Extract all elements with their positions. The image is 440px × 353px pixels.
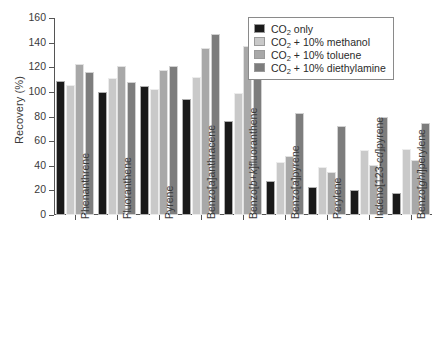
x-tick-label: Benzo[a]pyrene: [289, 145, 301, 219]
y-tick-mark: [49, 166, 54, 167]
legend-label: CO2 only: [271, 23, 313, 35]
x-tick-label: Pyrene: [163, 186, 175, 219]
y-tick-label: 160: [28, 11, 46, 23]
y-tick-label: 0: [40, 208, 46, 220]
x-tick-label: Benzo[b+k]fluoranthene: [247, 108, 259, 219]
y-axis-line: [54, 18, 55, 215]
y-tick-label: 20: [34, 183, 46, 195]
bar: [66, 85, 75, 216]
y-tick-label: 140: [28, 36, 46, 48]
x-axis-labels: PhenanthreneFluoranthenePyreneBenzo[a]an…: [54, 219, 432, 349]
bar: [392, 193, 401, 215]
legend-swatch-icon: [254, 37, 265, 46]
legend-swatch-icon: [254, 50, 265, 59]
legend-label: CO2 + 10% methanol: [271, 36, 370, 48]
bar: [182, 99, 191, 215]
legend-item: CO2 + 10% toluene: [254, 48, 386, 61]
x-tick-label: Perylene: [331, 178, 343, 219]
legend-item: CO2 + 10% diethylamine: [254, 61, 386, 74]
bar: [402, 149, 411, 215]
bar: [192, 77, 201, 215]
x-tick-label: Fluoranthene: [121, 157, 133, 219]
bar: [360, 150, 369, 215]
legend-item: CO2 only: [254, 22, 386, 35]
legend-item: CO2 + 10% methanol: [254, 35, 386, 48]
y-tick-label: 40: [34, 159, 46, 171]
legend-label: CO2 + 10% toluene: [271, 49, 361, 61]
bar: [224, 121, 233, 215]
y-tick-label: 60: [34, 134, 46, 146]
bar: [308, 187, 317, 215]
y-axis-title: Recovery (%): [13, 50, 25, 170]
bar: [140, 86, 149, 215]
bar: [98, 92, 107, 215]
y-tick-mark: [49, 141, 54, 142]
y-tick-mark: [49, 190, 54, 191]
bar: [56, 81, 65, 215]
y-tick-mark: [49, 215, 54, 216]
y-tick-label: 80: [34, 110, 46, 122]
x-tick-label: Benzo[ghi]perylene: [415, 129, 427, 219]
bar: [234, 93, 243, 215]
legend-swatch-icon: [254, 24, 265, 33]
y-tick-label: 100: [28, 85, 46, 97]
bar: [150, 89, 159, 215]
y-tick-mark: [49, 43, 54, 44]
bar: [350, 190, 359, 215]
y-tick-mark: [49, 18, 54, 19]
x-tick-label: Benzo[a]anthracene: [205, 125, 217, 219]
y-tick-mark: [49, 67, 54, 68]
bar: [266, 181, 275, 215]
x-tick-label: Indeno[123-cd]pyrene: [373, 117, 385, 219]
x-tick-label: Phenanthrene: [79, 153, 91, 219]
legend-swatch-icon: [254, 63, 265, 72]
y-tick-mark: [49, 92, 54, 93]
chart-legend: CO2 onlyCO2 + 10% methanolCO2 + 10% tolu…: [248, 17, 394, 80]
y-tick-label: 120: [28, 60, 46, 72]
bar: [318, 167, 327, 215]
recovery-bar-chart: Recovery (%) 020406080100120140160 Phena…: [0, 0, 440, 353]
y-tick-mark: [49, 117, 54, 118]
bar: [108, 78, 117, 215]
legend-label: CO2 + 10% diethylamine: [271, 62, 386, 74]
bar: [276, 162, 285, 215]
